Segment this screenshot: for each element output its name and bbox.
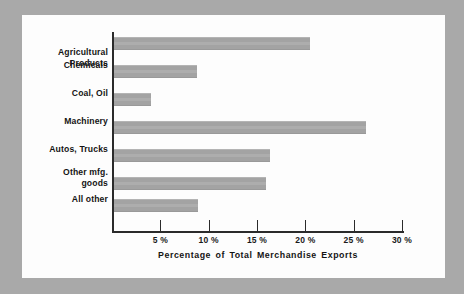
bar-autos-trucks: [114, 149, 270, 162]
x-axis-tick: [160, 220, 161, 232]
category-label: Chemicals: [22, 60, 108, 71]
x-axis-tick: [305, 220, 306, 232]
bar-chart-plot-area: Agricultural Products Chemicals Coal, Oi…: [22, 15, 445, 278]
category-label: Autos, Trucks: [22, 144, 108, 155]
x-axis-tick-label: 10 %: [199, 235, 219, 245]
x-axis-tick: [209, 220, 210, 232]
category-label: Machinery: [22, 116, 108, 127]
x-axis-tick: [402, 220, 403, 232]
bar-other-mfg-goods: [114, 177, 266, 190]
x-axis-tick-label: 5 %: [153, 235, 168, 245]
x-axis-title: Percentage of Total Merchandise Exports: [112, 250, 404, 260]
category-label: Coal, Oil: [22, 88, 108, 99]
x-axis-tick: [257, 220, 258, 232]
x-axis-tick-label: 20 %: [295, 235, 315, 245]
bar-agricultural-products: [114, 37, 310, 50]
bar-chemicals: [114, 65, 197, 78]
bar-coal-oil: [114, 93, 151, 106]
x-axis-line: [112, 231, 404, 233]
x-axis-tick-label: 30 %: [392, 235, 412, 245]
bar-all-other: [114, 199, 198, 212]
bar-machinery: [114, 121, 366, 134]
category-label: All other: [22, 194, 108, 205]
x-axis-tick-label: 15 %: [247, 235, 267, 245]
chart-figure-panel: Agricultural Products Chemicals Coal, Oi…: [22, 15, 445, 278]
category-label: Other mfg. goods: [22, 167, 108, 188]
x-axis-tick-label: 25 %: [344, 235, 364, 245]
x-axis-tick: [354, 220, 355, 232]
